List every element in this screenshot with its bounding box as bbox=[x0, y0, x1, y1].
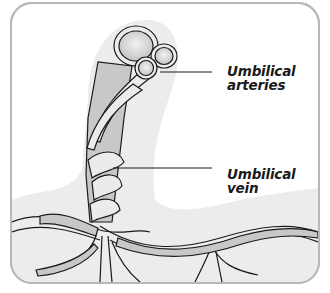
label-line-1: Umbilical bbox=[227, 167, 296, 181]
label-line-1: Umbilical bbox=[227, 64, 296, 78]
label-umbilical-arteries: Umbilical arteries bbox=[227, 64, 296, 92]
label-line-2: arteries bbox=[227, 78, 296, 92]
umbilical-cord-illustration bbox=[0, 0, 330, 293]
label-umbilical-vein: Umbilical vein bbox=[227, 167, 296, 195]
label-line-2: vein bbox=[227, 181, 296, 195]
